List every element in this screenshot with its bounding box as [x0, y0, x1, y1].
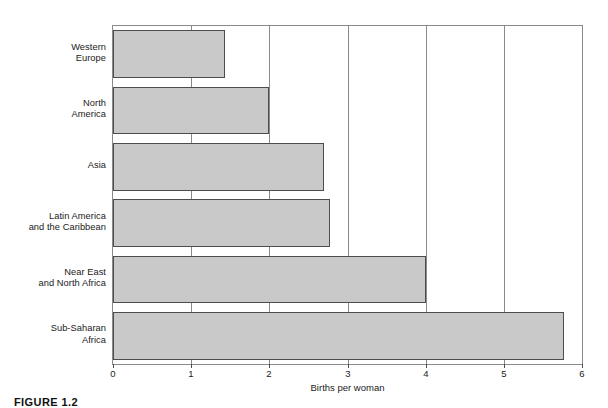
category-label-line: and North Africa: [39, 278, 106, 289]
x-tick-label: 1: [181, 368, 201, 380]
figure-caption: FIGURE 1.2: [14, 396, 78, 408]
bar: [113, 199, 330, 247]
x-tick-label: 6: [572, 368, 592, 380]
category-label: NorthAmerica: [0, 81, 106, 137]
category-label-line: Europe: [76, 53, 106, 64]
x-tick-label: 4: [416, 368, 436, 380]
category-label-line: America: [72, 109, 106, 120]
category-label-line: Africa: [82, 335, 106, 346]
bar: [113, 143, 324, 191]
category-label: WesternEurope: [0, 25, 106, 81]
category-label-line: Near East: [64, 267, 106, 278]
figure-container: WesternEuropeNorthAmericaAsiaLatin Ameri…: [0, 0, 608, 408]
category-label-line: North: [83, 98, 106, 109]
bar: [113, 30, 225, 78]
category-label-line: Western: [71, 42, 106, 53]
category-label-line: Latin America: [49, 211, 106, 222]
category-label: Sub-SaharanAfrica: [0, 307, 106, 363]
x-axis-title: Births per woman: [112, 382, 583, 393]
x-tick-label: 3: [338, 368, 358, 380]
bar-series: [113, 26, 582, 364]
bar: [113, 256, 426, 304]
category-label: Latin Americaand the Caribbean: [0, 194, 106, 250]
plot-area: [112, 25, 583, 365]
category-axis: WesternEuropeNorthAmericaAsiaLatin Ameri…: [0, 25, 106, 363]
category-label: Near Eastand North Africa: [0, 250, 106, 306]
x-tick-label: 5: [494, 368, 514, 380]
category-label-line: and the Caribbean: [29, 222, 106, 233]
category-label: Asia: [0, 138, 106, 194]
bar: [113, 312, 564, 360]
x-axis: Births per woman 0123456: [112, 364, 583, 404]
category-label-line: Sub-Saharan: [51, 323, 106, 334]
x-tick-label: 0: [103, 368, 123, 380]
category-label-line: Asia: [88, 160, 106, 171]
bar: [113, 87, 269, 135]
x-tick-label: 2: [259, 368, 279, 380]
